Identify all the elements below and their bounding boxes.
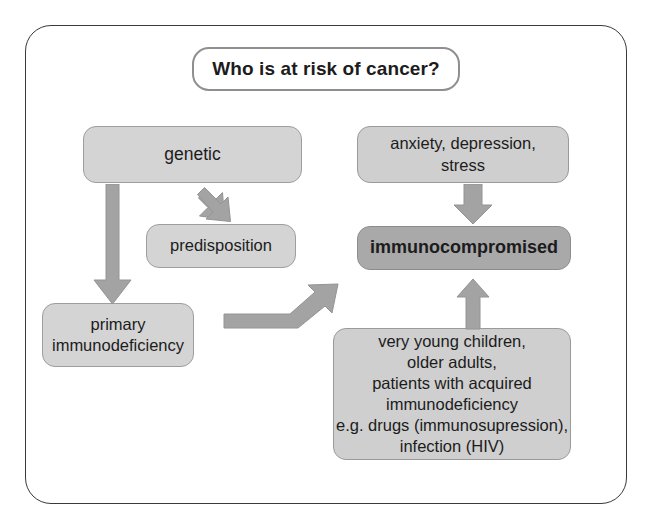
node-immunocompromised: immunocompromised	[357, 226, 571, 270]
node-primary-immunodeficiency: primary immunodeficiency	[42, 303, 194, 367]
node-anxiety-depression-stress: anxiety, depression, stress	[357, 126, 569, 183]
node-immunocompromised-label: immunocompromised	[358, 236, 570, 259]
arrow-primary-to-immunocompromised-icon	[222, 282, 344, 338]
node-genetic-label: genetic	[84, 143, 301, 165]
arrow-genetic-to-primary-icon	[90, 184, 136, 306]
node-anxiety-label: anxiety, depression, stress	[358, 133, 568, 175]
diagram-title-box: Who is at risk of cancer?	[192, 47, 460, 91]
arrow-groups-to-immunocompromised-icon	[455, 278, 491, 330]
page-title: Who is at risk of cancer?	[194, 57, 458, 81]
node-risk-groups-label: very young children, older adults, patie…	[334, 331, 570, 458]
diagram-canvas: Who is at risk of cancer? genetic anxiet…	[0, 0, 653, 525]
node-primary-label: primary immunodeficiency	[43, 314, 193, 356]
node-risk-groups: very young children, older adults, patie…	[333, 328, 571, 460]
node-predisposition-label: predisposition	[147, 235, 295, 256]
arrow-genetic-to-predisposition-icon	[195, 185, 247, 231]
arrow-anxiety-to-immunocompromised-icon	[452, 184, 494, 226]
node-genetic: genetic	[83, 126, 302, 183]
